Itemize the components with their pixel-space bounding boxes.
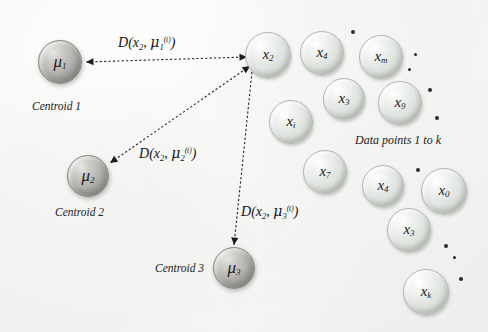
subscript-x7: 7 [326, 170, 331, 180]
subscript-x4b: 4 [384, 184, 389, 194]
distance-mu-symbol: μ [150, 34, 159, 50]
distance-arg-subscript: 2 [139, 42, 143, 52]
data-point-node-x9[interactable]: x9 [378, 81, 422, 125]
data-point-node-x4b[interactable]: x4 [362, 165, 404, 207]
centroid-caption-mu1: Centroid 1 [32, 100, 81, 112]
subscript-mu2: 2 [90, 175, 95, 185]
arrow-to-mu1-head-end [86, 58, 94, 65]
data-point-label-x7: x7 [319, 164, 330, 180]
distance-mu-superscript: (t) [164, 35, 171, 44]
distance-label-d2: D(x2, μ2(t)) [139, 145, 196, 163]
cluster-caption: Data points 1 to k [355, 133, 441, 148]
data-point-node-xm[interactable]: xm [359, 35, 403, 79]
ellipsis-dot-1 [414, 53, 417, 56]
arrow-to-mu3-head-end [231, 237, 238, 245]
data-point-node-x4a[interactable]: x4 [300, 31, 344, 75]
ellipsis-dot-4 [435, 116, 439, 120]
ellipsis-dot-3 [428, 88, 432, 92]
ellipsis-dot-5 [416, 168, 420, 172]
data-point-node-x2[interactable]: x2 [245, 32, 291, 78]
distance-fn-symbol: D [118, 35, 128, 50]
centroid-caption-mu2: Centroid 2 [55, 206, 104, 218]
arrow-to-mu1 [86, 57, 247, 62]
centroid-label-mu3: μ3 [227, 259, 240, 277]
data-point-label-xi: xi [286, 114, 295, 130]
distance-mu-symbol: μ [273, 203, 282, 219]
data-point-node-x0[interactable]: x0 [421, 168, 467, 214]
ellipsis-dot-7 [453, 256, 456, 259]
subscript-mu1: 1 [62, 61, 67, 71]
distance-label-d1: D(x2, μ1(t)) [118, 34, 175, 52]
distance-fn-symbol: D [241, 204, 251, 219]
centroid-label-mu1: μ1 [53, 53, 66, 71]
arrow-to-mu2-head-end [110, 156, 118, 163]
data-point-label-x4b: x4 [377, 178, 388, 194]
subscript-x3b: 3 [410, 228, 415, 238]
distance-label-d3: D(x2, μ3(t)) [241, 203, 298, 221]
centroid-label-mu2: μ2 [81, 167, 94, 185]
subscript-x0: 0 [445, 189, 450, 199]
distance-mu-superscript: (t) [287, 204, 294, 213]
figure-canvas: x2x4xmx3x9xix7x4x0x3xkμ1μ2μ3 Centroid 1C… [0, 0, 488, 332]
data-point-node-x7[interactable]: x7 [303, 150, 347, 194]
subscript-x3a: 3 [345, 97, 350, 107]
data-point-node-x3a[interactable]: x3 [323, 78, 365, 120]
data-point-label-x0: x0 [438, 183, 449, 199]
data-point-label-x3b: x3 [403, 222, 414, 238]
subscript-xi: i [293, 120, 296, 130]
distance-arg-subscript: 2 [262, 211, 266, 221]
data-point-label-xm: xm [374, 49, 387, 65]
ellipsis-dot-0 [351, 30, 355, 34]
distance-mu-superscript: (t) [185, 146, 192, 155]
subscript-xk: k [427, 290, 431, 300]
subscript-x9: 9 [401, 101, 406, 111]
centroid-node-mu2[interactable]: μ2 [67, 155, 109, 197]
subscript-xm: m [381, 55, 388, 65]
centroid-caption-mu3: Centroid 3 [155, 262, 204, 274]
data-point-label-xk: xk [421, 284, 432, 300]
subscript-mu3: 3 [236, 267, 241, 277]
data-point-label-x2: x2 [262, 47, 273, 63]
data-point-label-x4a: x4 [316, 45, 327, 61]
distance-fn-symbol: D [139, 146, 149, 161]
subscript-x4a: 4 [323, 51, 328, 61]
ellipsis-dot-2 [408, 68, 411, 71]
distance-mu-symbol: μ [171, 145, 180, 161]
distance-arg-subscript: 2 [160, 153, 164, 163]
ellipsis-dot-6 [444, 244, 448, 248]
data-point-node-x3b[interactable]: x3 [387, 208, 431, 252]
ellipsis-dot-8 [459, 277, 463, 281]
data-point-node-xk[interactable]: xk [403, 269, 449, 315]
data-point-label-x3a: x3 [338, 91, 349, 107]
centroid-node-mu1[interactable]: μ1 [38, 40, 82, 84]
centroid-node-mu3[interactable]: μ3 [213, 247, 255, 289]
subscript-x2: 2 [269, 53, 274, 63]
data-point-node-xi[interactable]: xi [269, 100, 313, 144]
data-point-label-x9: x9 [394, 95, 405, 111]
